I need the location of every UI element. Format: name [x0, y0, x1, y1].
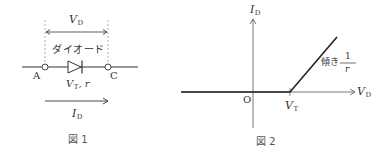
slope-denominator: r	[345, 65, 349, 74]
vt-label: VT	[285, 100, 298, 113]
iv-characteristic-line	[181, 37, 337, 92]
origin-label: O	[243, 95, 251, 105]
x-axis-label: VD	[357, 86, 371, 99]
diagram-canvas	[0, 0, 382, 156]
diode-label: ダイオード	[52, 45, 105, 55]
slope-prefix: 傾き	[321, 58, 339, 67]
terminal-a-label: A	[33, 71, 40, 81]
terminal-a-icon	[42, 64, 48, 70]
figure1-caption: 図 1	[68, 135, 88, 145]
terminal-c-label: C	[110, 71, 118, 81]
diode-params-label: VT, r	[66, 79, 90, 91]
figure1-circuit	[22, 20, 138, 104]
slope-numerator: 1	[345, 52, 351, 61]
y-axis-label: ID	[250, 4, 260, 17]
vd-label: VD	[69, 14, 83, 27]
id-label: ID	[72, 108, 82, 121]
figure2-graph	[181, 19, 356, 128]
figure2-caption: 図 2	[256, 137, 276, 147]
diode-triangle-icon	[68, 61, 81, 73]
